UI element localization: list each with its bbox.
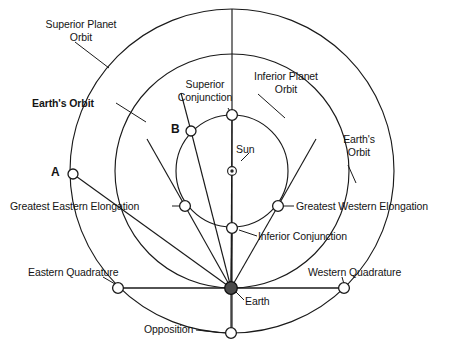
label-point-a: A [51,166,60,179]
leader-opposition [196,330,226,333]
label-greatest-western-elongation: Greatest Western Elongation [296,200,428,213]
label-earths-orbit-right: Earth's Orbit [330,133,388,158]
western-quadrature-marker [339,283,350,294]
earths-orbit-right-line2: Orbit [348,146,370,158]
label-point-b: B [171,123,180,136]
sightline-earth-to-point-b [191,131,231,288]
label-opposition: Opposition [144,323,193,336]
sightline-earth-to-greatest-eastern-elongation [185,206,231,288]
sightline-extended-eastern-elongation [147,139,185,206]
leader-earths-orbit-left [116,103,146,122]
sun-center-dot [230,169,233,172]
label-eastern-quadrature: Eastern Quadrature [28,266,118,279]
earths-orbit-right-line1: Earth's [343,133,375,145]
label-greatest-eastern-elongation: Greatest Eastern Elongation [10,200,139,213]
point-b-marker [186,126,196,136]
superior-conjunction-line2: Conjunction [178,91,232,103]
eastern-quadrature-marker [113,283,124,294]
label-superior-planet-orbit: Superior Planet Orbit [26,18,136,43]
label-inferior-conjunction: Inferior Conjunction [258,230,347,243]
superior-conjunction-line1: Superior [186,78,225,90]
leader-inferior-conjunction [239,230,257,236]
superior-planet-orbit-line1: Superior Planet [46,18,117,30]
superior-conjunction-marker [227,110,238,121]
planetary-configurations-diagram: Superior Planet Orbit Earth's Orbit Supe… [0,0,458,355]
label-earth: Earth [245,295,270,308]
label-superior-conjunction: Superior Conjunction [163,78,247,103]
opposition-marker [226,328,237,339]
inferior-planet-orbit-line2: Orbit [275,83,297,95]
inferior-conjunction-marker [227,223,238,234]
superior-planet-orbit-line2: Orbit [70,31,92,43]
label-inferior-planet-orbit: Inferior Planet Orbit [240,70,332,95]
point-a-marker [68,169,78,179]
leader-earth [236,292,244,300]
greatest-eastern-elongation-marker [180,201,191,212]
label-western-quadrature: Western Quadrature [308,266,401,279]
label-sun: Sun [236,143,254,156]
inferior-planet-orbit-line1: Inferior Planet [254,70,318,82]
greatest-western-elongation-marker [273,201,284,212]
sightline-earth-to-greatest-western-elongation [231,206,278,288]
label-earths-orbit-left: Earth's Orbit [32,97,94,110]
diagram-canvas [0,0,458,355]
leader-inferior-planet-orbit [258,94,285,118]
leader-superior-planet-orbit [75,42,109,68]
earth-marker [225,282,238,295]
